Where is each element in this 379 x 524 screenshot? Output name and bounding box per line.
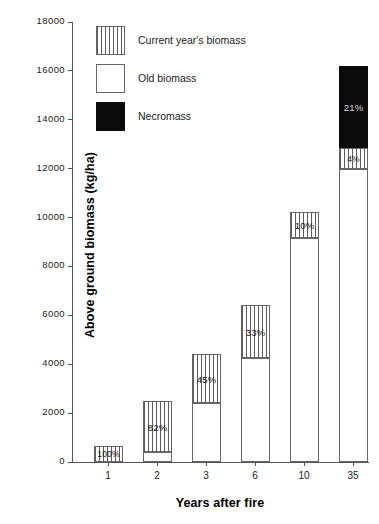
y-tick-mark [68,315,72,316]
bar-10-current-biomass: 10% [290,212,319,238]
x-tick-label: 2 [143,470,171,481]
legend-swatch-current-biomass [96,26,125,55]
bar-1-current-biomass: 100% [94,446,123,462]
x-tick-mark [108,462,109,466]
x-axis-line [72,462,369,463]
bar-35-necromass: 21% [339,66,368,148]
y-tick-mark [68,266,72,267]
y-tick-mark [68,413,72,414]
x-tick-label: 1 [94,470,122,481]
bar-35-current-biomass: 4% [339,148,368,169]
bar-35-current-label: 4% [340,154,367,164]
bar-6-current-label: 33% [242,326,269,337]
legend-label-current-biomass: Current year's biomass [138,34,246,46]
bar-2-current-label: 82% [144,421,171,432]
x-tick-label: 35 [339,470,367,481]
y-tick-label: 16000 [37,64,65,75]
bar-35-old-biomass [339,169,368,462]
y-tick-label: 4000 [42,357,65,368]
x-axis-title: Years after fire [70,496,370,510]
x-tick-label: 10 [290,470,318,481]
bar-2-old-biomass [143,452,172,462]
bar-3-old-biomass [192,403,221,462]
y-tick-label: 14000 [37,113,65,124]
chart-figure: Above ground biomass (kg/ha) 0 2000 4000… [0,0,379,524]
legend-swatch-old-biomass [96,64,125,93]
x-tick-mark [255,462,256,466]
y-tick-mark [68,217,72,218]
y-tick-mark [68,22,72,23]
x-tick-label: 6 [241,470,269,481]
x-tick-mark [157,462,158,466]
bar-3-current-biomass: 45% [192,354,221,403]
x-tick-mark [304,462,305,466]
legend-swatch-necromass [96,102,125,131]
bar-6-current-biomass: 33% [241,305,270,358]
y-tick-label: 10000 [37,211,65,222]
bar-6-old-biomass [241,358,270,462]
y-tick-label: 6000 [42,308,65,319]
legend-label-old-biomass: Old biomass [138,72,196,84]
legend-label-necromass: Necromass [138,110,191,122]
bar-10-current-label: 10% [291,220,318,231]
x-tick-mark [206,462,207,466]
x-tick-label: 3 [192,470,220,481]
x-tick-mark [353,462,354,466]
y-tick-label: 12000 [37,162,65,173]
y-tick-mark [68,168,72,169]
bar-35-necromass-label: 21% [340,102,367,113]
y-tick-label: 18000 [37,15,65,26]
y-tick-mark [68,70,72,71]
y-tick-label: 0 [59,455,65,466]
y-tick-mark [68,364,72,365]
y-tick-mark [68,119,72,120]
y-axis-line [72,22,73,463]
y-tick-mark [68,462,72,463]
bar-10-old-biomass [290,238,319,462]
y-tick-label: 8000 [42,259,65,270]
bar-1-current-label: 100% [95,449,122,459]
y-tick-label: 2000 [42,406,65,417]
bar-2-current-biomass: 82% [143,401,172,452]
bar-3-current-label: 45% [193,373,220,384]
y-axis-title: Above ground biomass (kg/ha) [83,95,97,395]
